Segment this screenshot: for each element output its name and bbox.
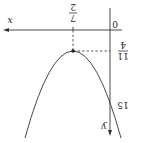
vertex-point: [71, 49, 75, 53]
x-axis-arrow-icon: [3, 28, 9, 32]
vertex-y-denominator: 4: [120, 40, 126, 50]
vertex-y-label: 11 4: [117, 40, 128, 61]
parabola-diagram: x 0 y 7 2 11 4 15: [0, 0, 168, 143]
y-intercept-label: 15: [117, 100, 129, 110]
vertex-x-label: 7 2: [69, 2, 77, 23]
y-axis-arrow-icon: [108, 130, 112, 136]
vertex-y-numerator: 11: [117, 51, 128, 61]
vertex-x-numerator: 7: [70, 13, 76, 23]
y-axis-label: y: [101, 122, 108, 132]
x-axis-label: x: [7, 16, 12, 26]
origin-label: 0: [112, 19, 118, 29]
vertex-x-denominator: 2: [70, 2, 76, 12]
